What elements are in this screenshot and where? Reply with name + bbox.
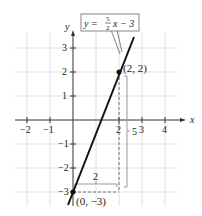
point-label: (2, 2) [123,62,147,75]
y-tick: −2 [58,162,69,173]
equation-den: 2 [106,24,110,32]
x-tick: −2 [20,124,31,135]
y-axis-arrow-icon [71,30,75,36]
y-tick: −1 [58,138,69,149]
rise-bracket [124,76,130,187]
y-tick: 3 [62,42,67,53]
y-tick: 2 [62,66,67,77]
point-label: (0, −3) [76,195,106,208]
y-tick: 1 [62,90,67,101]
x-axis-label: x [189,114,195,125]
chart: x y −2 −1 2 3 4 3 2 1 −1 −2 −3 5 2 y = 5… [0,0,202,216]
point-0-neg3 [71,190,76,195]
axes [15,34,182,206]
x-tick: −1 [43,124,54,135]
run-label: 2 [93,171,98,182]
y-axis-label: y [64,21,70,32]
chart-svg: x y −2 −1 2 3 4 3 2 1 −1 −2 −3 5 2 y = 5… [0,0,202,216]
y-tick: −3 [58,186,69,197]
x-tick: 4 [162,124,167,135]
x-axis-arrow-icon [180,118,186,122]
rise-label: 5 [132,126,137,137]
x-tick: 2 [116,124,121,135]
point-2-2 [117,70,122,75]
equation-num: 5 [106,15,110,23]
equation-rest: x − 3 [112,18,134,29]
callout-pointer [111,30,122,54]
x-tick: 3 [139,124,144,135]
equation-lhs: y = [83,18,98,29]
